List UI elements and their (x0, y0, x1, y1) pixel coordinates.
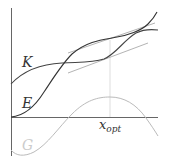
tangent-line-lower (68, 43, 148, 73)
label-x-opt-sub: opt (106, 124, 121, 134)
label-G: G (22, 137, 33, 153)
label-x-opt: xopt (99, 117, 121, 132)
diagram-canvas: K E G xopt (0, 0, 169, 167)
E-curve (11, 12, 157, 117)
label-K: K (22, 54, 32, 70)
K-curve (11, 29, 158, 84)
label-E: E (22, 95, 32, 111)
